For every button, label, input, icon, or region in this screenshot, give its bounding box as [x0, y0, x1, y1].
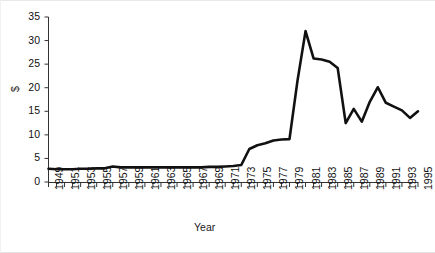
x-tick-label: 1965: [181, 167, 193, 190]
chart-screenshot: 05101520253035 1949195119531955195719591…: [0, 0, 435, 253]
x-tick-label: 1949: [53, 167, 65, 190]
x-tick-label: 1957: [117, 167, 129, 190]
x-tick-label: 1963: [165, 167, 177, 190]
data-series-line: [49, 31, 419, 169]
x-tick-label: 1993: [406, 167, 418, 190]
y-tick-label: 0: [22, 175, 40, 187]
axis-lines: [49, 17, 419, 183]
y-tick-marks: [45, 17, 49, 182]
x-tick-label: 1967: [197, 167, 209, 190]
x-tick-label: 1991: [390, 167, 402, 190]
x-tick-label: 1959: [133, 167, 145, 190]
y-tick-label: 5: [22, 151, 40, 163]
x-tick-label: 1971: [229, 167, 241, 190]
line-chart-figure: 05101520253035 1949195119531955195719591…: [0, 0, 435, 253]
x-tick-label: 1961: [149, 167, 161, 190]
x-tick-label: 1951: [69, 167, 81, 190]
x-tick-label: 1969: [213, 167, 225, 190]
x-axis-title: Year: [194, 221, 215, 233]
x-tick-label: 1985: [342, 167, 354, 190]
y-tick-label: 25: [22, 57, 40, 69]
x-tick-label: 1989: [374, 167, 386, 190]
x-tick-label: 1977: [277, 167, 289, 190]
y-tick-label: 35: [22, 10, 40, 22]
x-tick-label: 1953: [85, 167, 97, 190]
x-tick-label: 1981: [310, 167, 322, 190]
x-tick-label: 1979: [293, 167, 305, 190]
y-tick-label: 20: [22, 81, 40, 93]
x-tick-label: 1955: [101, 167, 113, 190]
x-tick-label: 1975: [261, 167, 273, 190]
x-tick-label: 1987: [358, 167, 370, 190]
y-tick-label: 10: [22, 128, 40, 140]
x-tick-label: 1995: [422, 167, 434, 190]
y-tick-label: 30: [22, 34, 40, 46]
x-tick-label: 1983: [326, 167, 338, 190]
y-tick-label: 15: [22, 104, 40, 116]
plot-area-svg: [0, 0, 435, 253]
x-tick-label: 1973: [245, 167, 257, 190]
y-axis-title: $: [9, 86, 21, 92]
